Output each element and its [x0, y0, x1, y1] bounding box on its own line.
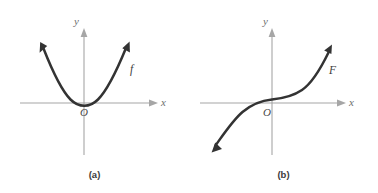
x-axis-label: x [349, 97, 354, 108]
panel-caption-b: (b) [189, 170, 378, 180]
parabola-curve [44, 48, 127, 106]
y-axis-arrowhead [269, 28, 276, 37]
curve-label-F: F [329, 65, 336, 77]
y-axis-label: y [74, 16, 79, 27]
x-axis-arrowhead [337, 100, 346, 107]
x-axis-arrowhead [149, 100, 158, 107]
curve-label-f: f [130, 64, 133, 76]
origin-label: O [80, 107, 88, 118]
panel-b: y x O F (b) [189, 0, 378, 193]
y-axis-arrowhead [81, 28, 88, 37]
origin-label: O [263, 107, 271, 118]
panel-a: y x O f (a) [0, 0, 189, 193]
x-axis-label: x [161, 97, 166, 108]
panel-caption-a: (a) [0, 170, 189, 180]
y-axis-label: y [263, 16, 268, 27]
figure-root: y x O f (a) y x O F (b) [0, 0, 378, 193]
